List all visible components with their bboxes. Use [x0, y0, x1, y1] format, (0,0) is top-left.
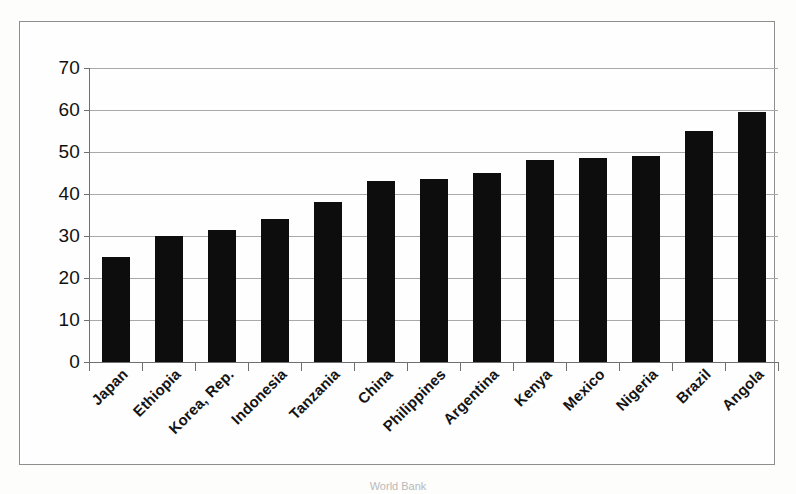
y-axis-tick-label: 20 — [58, 267, 80, 289]
value-axis — [89, 68, 90, 363]
chart-page: 010203040506070 JapanEthiopiaKorea, Rep.… — [0, 0, 796, 494]
x-axis-category-label-text: Kenya — [510, 365, 554, 409]
y-axis-tick-label: 0 — [69, 351, 80, 373]
chart-frame: 010203040506070 JapanEthiopiaKorea, Rep.… — [19, 21, 775, 465]
x-axis-category-label-text: Mexico — [559, 365, 607, 413]
x-axis-category-label-text: China — [354, 365, 396, 407]
gridline — [89, 68, 778, 69]
bar — [420, 179, 448, 362]
x-axis-category-label-text: Japan — [87, 365, 130, 408]
gridline — [89, 110, 778, 111]
x-axis-category-label-text: Angola — [718, 365, 766, 413]
x-axis-category-label-text: Brazil — [672, 365, 713, 406]
bar — [102, 257, 130, 362]
bar — [632, 156, 660, 362]
y-axis-tick-label: 60 — [58, 99, 80, 121]
y-axis-tick-label: 10 — [58, 309, 80, 331]
y-axis-tick-label: 30 — [58, 225, 80, 247]
category-axis-labels: JapanEthiopiaKorea, Rep.IndonesiaTanzani… — [89, 371, 779, 481]
plot-area: 010203040506070 — [89, 68, 778, 362]
y-axis-tick-label: 40 — [58, 183, 80, 205]
x-axis-category-label-text: Nigeria — [612, 365, 660, 413]
bar — [738, 112, 766, 362]
bar — [685, 131, 713, 362]
gridline — [89, 152, 778, 153]
bar — [579, 158, 607, 362]
x-axis-tick — [89, 363, 90, 371]
source-caption: World Bank — [0, 480, 796, 494]
bar — [155, 236, 183, 362]
y-axis-tick-label: 70 — [58, 57, 80, 79]
y-axis-tick-label: 50 — [58, 141, 80, 163]
